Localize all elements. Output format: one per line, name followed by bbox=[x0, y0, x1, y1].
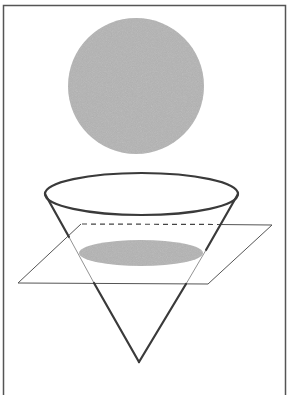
cross-section-ellipse bbox=[79, 240, 203, 266]
cone-top-rim bbox=[45, 173, 238, 215]
cone-right-side-upper bbox=[206, 194, 238, 250]
plane-back-edge bbox=[218, 225, 272, 226]
plane-front-edge bbox=[18, 283, 208, 284]
plane-right-edge bbox=[208, 225, 272, 284]
plane-left-edge bbox=[18, 224, 81, 283]
cone-left-side-lower bbox=[94, 283, 139, 362]
plane-back-edge-hidden bbox=[82, 224, 218, 225]
conic-section-diagram bbox=[0, 0, 288, 395]
cone-right-side-lower bbox=[139, 284, 186, 362]
circle-shape bbox=[68, 18, 204, 154]
